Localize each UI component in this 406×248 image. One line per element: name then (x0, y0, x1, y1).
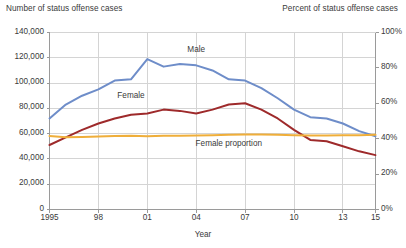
x-tick-label: 13 (338, 213, 347, 222)
y-left-tick-label: 20,000 (19, 179, 44, 187)
y-left-tick-label: 140,000 (14, 28, 44, 36)
y-left-tick-label: 0 (39, 205, 44, 213)
series-label-female-proportion: Female proportion (196, 139, 262, 148)
gridlines (50, 33, 376, 210)
y-right-tick-label: 60% (381, 98, 397, 106)
x-tick-label: 10 (289, 213, 298, 222)
x-tick-label: 07 (241, 213, 250, 222)
series-label-male: Male (187, 45, 205, 54)
y-left-tick-label: 60,000 (19, 129, 44, 137)
y-right-tick-label: 100% (381, 28, 402, 36)
x-tick-label: 1995 (40, 213, 58, 222)
status-offense-cases-chart: Number of status offense cases Percent o… (0, 0, 406, 248)
x-axis-title: Year (0, 230, 406, 239)
y-right-tick-label: 80% (381, 63, 397, 71)
y-left-tick-label: 120,000 (14, 53, 44, 61)
x-tick-label: 15 (371, 213, 380, 222)
y-right-tick-label: 20% (381, 169, 397, 177)
y-right-tick-label: 40% (381, 134, 397, 142)
y-left-tick-label: 80,000 (19, 103, 44, 111)
y-right-tick-label: 0% (381, 205, 393, 213)
y-left-tick-label: 100,000 (14, 78, 44, 86)
axis-lines (47, 33, 379, 213)
x-tick-label: 04 (192, 213, 201, 222)
x-tick-label: 98 (94, 213, 103, 222)
x-tick-label: 01 (143, 213, 152, 222)
plot-area (0, 0, 406, 248)
series-label-female: Female (117, 91, 144, 100)
left-axis-title: Number of status offense cases (6, 4, 123, 13)
right-axis-title: Percent of status offense cases (282, 4, 398, 13)
y-left-tick-label: 40,000 (19, 154, 44, 162)
